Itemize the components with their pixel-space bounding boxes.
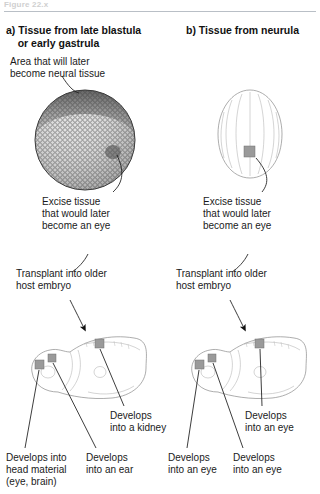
leader-ear-a	[53, 363, 96, 448]
graft-patch-head-b	[195, 360, 204, 369]
figure-root: Figure 22.x a) Tissue from late blastula…	[0, 0, 320, 494]
leader-kidney-a	[100, 349, 124, 406]
label-outcome-ear-a: Develops into an ear	[86, 452, 133, 476]
host-larva-a	[32, 337, 147, 399]
label-outcome-ear-b: Develops into an eye	[233, 452, 282, 476]
blastula-specimen	[35, 90, 135, 190]
graft-patch-ear-a	[48, 354, 56, 362]
graft-patch-head-a	[35, 360, 44, 369]
label-outcome-head-a: Develops into head material (eye, brain)	[6, 452, 67, 489]
leader-head-a	[25, 370, 39, 448]
graft-patch-kidney-b	[255, 339, 264, 348]
label-outcome-kidney-b: Develops into an eye	[245, 410, 294, 434]
label-neural-area-a: Area that will later become neural tissu…	[10, 56, 105, 80]
leader-eye2-b	[213, 363, 243, 448]
leader-eye1-b	[187, 370, 199, 448]
host-larva-b	[192, 337, 307, 399]
label-outcome-kidney-a: Develops into a kidney	[110, 410, 166, 434]
graft-source-patch-b	[244, 146, 255, 157]
flow-a-2	[70, 300, 84, 328]
label-excise-b: Excise tissue that would later become an…	[203, 196, 271, 233]
label-outcome-head-b: Develops into an eye	[168, 452, 217, 476]
label-transplant-b: Transplant into older host embryo	[176, 268, 267, 292]
flow-b-2	[230, 300, 244, 328]
label-excise-a: Excise tissue that would later become an…	[42, 196, 110, 233]
neurula-specimen	[218, 90, 282, 178]
graft-patch-ear-b	[208, 354, 216, 362]
label-transplant-a: Transplant into older host embryo	[16, 268, 107, 292]
graft-patch-kidney-a	[95, 339, 104, 348]
